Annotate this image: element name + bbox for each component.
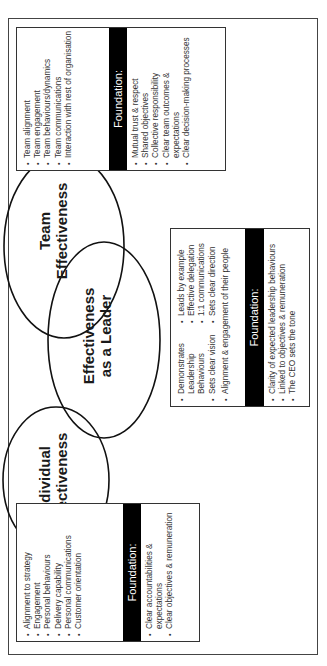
list-item: Team alignment <box>23 31 33 166</box>
list-item: Sets clear direction <box>208 232 218 324</box>
team-items-list: Team alignment Team engagement Team beha… <box>23 31 74 166</box>
list-item: Personal behaviours <box>43 507 53 637</box>
leader-effectiveness-label: Effectiveness as a Leader <box>80 261 114 411</box>
list-item: Alignment to strategy <box>23 507 33 637</box>
list-item: Interaction with rest of organisation <box>64 31 74 166</box>
leader-label-line2: as a Leader <box>97 261 114 411</box>
list-item: Mutual trust & respect <box>131 31 141 166</box>
list-item: Clear accountabilities & expectations <box>145 507 165 637</box>
list-item: Engagement <box>33 507 43 637</box>
team-effectiveness-label: Team Effectiveness <box>36 156 70 306</box>
individual-foundation-header: Foundation: <box>123 504 141 641</box>
list-item: Clear team outcomes & expectations <box>162 31 182 166</box>
list-item: Clear decision-making processes <box>182 31 192 166</box>
team-foundation-list: Mutual trust & respect Shared objectives… <box>131 31 192 166</box>
list-item: Shared objectives <box>141 31 151 166</box>
list-item: Collective responsibility <box>151 31 161 166</box>
team-label-line2: Effectiveness <box>53 156 70 306</box>
individual-foundation-list: Clear accountabilities & expectations Cl… <box>145 507 176 637</box>
list-item: Leads by example <box>177 232 187 324</box>
list-item: Delivery capability <box>54 507 64 637</box>
list-item: Team engagement <box>33 31 43 166</box>
list-item: Effective delegation <box>187 232 197 324</box>
list-item: The CEO sets the tone <box>288 232 298 402</box>
list-item: Demonstrates Leadership Behaviours <box>177 324 208 402</box>
leader-left-list: Demonstrates Leadership Behaviours Sets … <box>177 324 218 402</box>
list-item: Sets clear vision <box>208 324 218 402</box>
leader-foundation-header: Foundation: <box>245 229 264 406</box>
leader-full-list: Alignment & engagement of their people <box>221 232 231 402</box>
team-label-line1: Team <box>36 156 53 306</box>
leader-effectiveness-box: Demonstrates Leadership Behaviours Sets … <box>170 228 310 407</box>
list-item: Team communications <box>54 31 64 166</box>
list-item: Clarity of expected leadership behaviour… <box>268 232 278 402</box>
team-foundation-header: Foundation: <box>109 28 127 170</box>
list-item: Team behaviours/dynamics <box>43 31 53 166</box>
leader-items-columns: Demonstrates Leadership Behaviours Sets … <box>177 232 218 402</box>
leader-foundation-list: Clarity of expected leadership behaviour… <box>268 232 299 402</box>
diagram-canvas: Individual Effectiveness Team Effectiven… <box>0 0 327 666</box>
leader-label-line1: Effectiveness <box>80 261 97 411</box>
individual-effectiveness-box: Alignment to strategy Engagement Persona… <box>16 503 200 642</box>
list-item: Alignment & engagement of their people <box>221 232 231 402</box>
list-item: Personal communications <box>64 507 74 637</box>
list-item: Linked to objectives & remuneration <box>278 232 288 402</box>
individual-items-list: Alignment to strategy Engagement Persona… <box>23 507 84 637</box>
list-item: 1:1 communications <box>197 232 207 324</box>
list-item: Customer orientation <box>74 507 84 637</box>
list-item: Clear objectives & remuneration <box>165 507 175 637</box>
team-effectiveness-box: Team alignment Team engagement Team beha… <box>16 27 226 171</box>
leader-right-list: Leads by example Effective delegation 1:… <box>177 232 218 324</box>
